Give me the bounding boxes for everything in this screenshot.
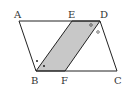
label-C: C xyxy=(114,75,122,86)
angle-mark-dot-B2 xyxy=(43,65,45,67)
geometry-diagram: A E D B F C xyxy=(0,0,131,90)
label-B: B xyxy=(31,75,38,86)
shaded-parallelogram-BFDE xyxy=(36,21,100,71)
label-F: F xyxy=(61,75,68,86)
angle-mark-circle-D2 xyxy=(97,31,100,34)
angle-mark-dot-B1 xyxy=(36,60,38,62)
label-A: A xyxy=(13,9,22,20)
label-E: E xyxy=(68,9,75,20)
label-D: D xyxy=(100,9,108,20)
